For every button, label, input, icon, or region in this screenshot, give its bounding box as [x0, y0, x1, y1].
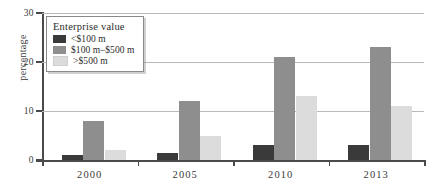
bar [274, 57, 295, 160]
x-tick-mark [233, 160, 235, 166]
x-tick-label: 2005 [145, 169, 225, 180]
legend-swatch [53, 56, 68, 66]
x-tick-mark [329, 160, 331, 166]
x-tick-mark [138, 160, 140, 166]
bar-chart: percentage 0102030 2000200520102013 Ente… [0, 0, 431, 188]
legend-item: <$100 m [53, 34, 135, 44]
y-tick-label: 10 [4, 106, 34, 116]
y-tick-label: 30 [4, 8, 34, 18]
bar [391, 106, 412, 160]
bar [62, 155, 83, 160]
legend-item: >$500 m [53, 56, 135, 66]
legend-item-label: $100 m–$500 m [71, 45, 135, 55]
legend-item-label: <$100 m [71, 34, 106, 44]
bar [179, 101, 200, 160]
x-tick-mark [424, 160, 426, 166]
legend-item-label: >$500 m [73, 56, 108, 66]
bar [253, 145, 274, 160]
x-tick-mark [42, 160, 44, 166]
bar [200, 136, 221, 161]
gridline [42, 13, 424, 14]
y-tick-label: 20 [4, 57, 34, 67]
legend-title: Enterprise value [53, 21, 135, 32]
bar [157, 153, 178, 160]
legend-swatch [53, 35, 66, 43]
legend-items: <$100 m$100 m–$500 m>$500 m [53, 34, 135, 66]
gridline [42, 111, 424, 112]
bar [105, 150, 126, 160]
bar [296, 96, 317, 160]
bar [348, 145, 369, 160]
bar [370, 47, 391, 160]
legend: Enterprise value <$100 m$100 m–$500 m>$5… [46, 16, 144, 72]
legend-item: $100 m–$500 m [53, 45, 135, 55]
x-tick-label: 2013 [336, 169, 416, 180]
x-tick-label: 2000 [50, 169, 130, 180]
legend-swatch [53, 46, 66, 54]
bar [83, 121, 104, 160]
x-tick-label: 2010 [241, 169, 321, 180]
y-tick-label: 0 [4, 155, 34, 165]
